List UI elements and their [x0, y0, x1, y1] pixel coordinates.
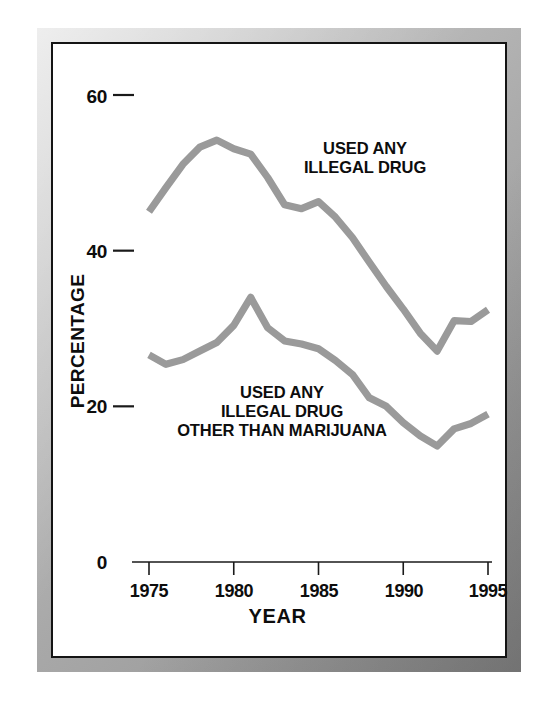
x-tick-label-1990: 1990 — [368, 581, 440, 602]
y-axis-title: PERCENTAGE — [67, 241, 89, 441]
y-tick-label-60: 60 — [62, 86, 107, 108]
series-label-line-2: ILLEGAL DRUG — [270, 158, 460, 177]
series-label-line-2: ILLEGAL DRUG — [167, 402, 397, 421]
series-label-used-any-illegal-drug-other-than-marijuana: USED ANY ILLEGAL DRUG OTHER THAN MARIJUA… — [167, 383, 397, 440]
x-tick-label-1995: 1995 — [452, 581, 524, 602]
series-label-line-1: USED ANY — [167, 383, 397, 402]
x-tick-label-1975: 1975 — [113, 581, 185, 602]
series-label-line-3: OTHER THAN MARIJUANA — [167, 421, 397, 440]
figure-container: 60 40 20 0 1975 1980 1985 1990 1995 PERC… — [0, 0, 555, 703]
x-tick-label-1980: 1980 — [198, 581, 270, 602]
series-label-line-1: USED ANY — [270, 139, 460, 158]
x-tick-label-1985: 1985 — [283, 581, 355, 602]
series-label-used-any-illegal-drug: USED ANY ILLEGAL DRUG — [270, 139, 460, 177]
x-axis-title: YEAR — [0, 605, 555, 628]
y-tick-label-0: 0 — [62, 552, 107, 574]
chart-plate — [51, 42, 507, 658]
